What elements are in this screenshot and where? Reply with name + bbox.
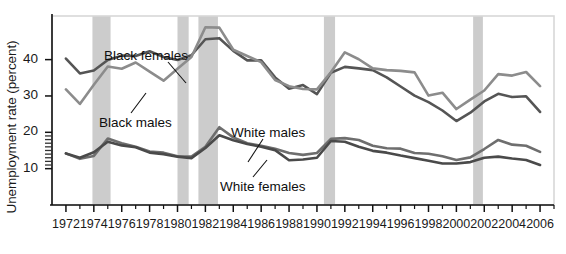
unemployment-rate-chart: Unemployment rate (percent) 10203040 197… [0, 0, 566, 254]
recession-band [178, 16, 189, 205]
y-tick-label: 40 [8, 51, 38, 66]
series-annotation-label: White females [220, 179, 306, 194]
recession-band [92, 16, 110, 205]
series-annotation-label: Black females [104, 48, 188, 63]
series-annotation-label: White males [231, 125, 305, 140]
series-annotation-label: Black males [99, 115, 172, 130]
y-tick-label: 20 [8, 123, 38, 138]
x-tick-label: 2006 [520, 217, 560, 231]
series-line [66, 27, 540, 109]
recession-band [324, 16, 335, 205]
y-tick-label: 10 [8, 160, 38, 175]
recession-bands [92, 16, 482, 205]
y-tick-label: 30 [8, 87, 38, 102]
